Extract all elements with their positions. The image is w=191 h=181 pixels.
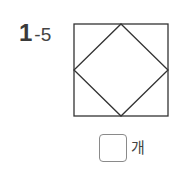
problem-number-main: 1 xyxy=(19,20,32,46)
square-diamond-figure xyxy=(73,23,170,118)
inner-diamond xyxy=(74,24,168,116)
outer-square xyxy=(74,24,168,116)
problem-number-sub: -5 xyxy=(34,22,51,48)
answer-input-box[interactable] xyxy=(99,134,127,162)
problem-number: 1 -5 xyxy=(19,20,51,46)
answer-unit-label: 개 xyxy=(131,139,145,157)
